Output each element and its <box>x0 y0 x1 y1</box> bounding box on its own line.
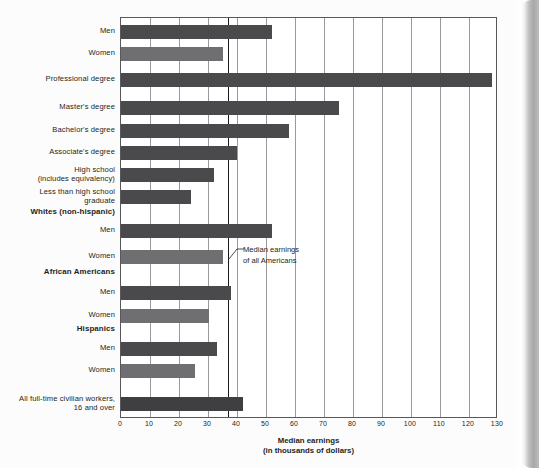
category-label: Professional degree <box>2 74 115 83</box>
x-tick-0: 0 <box>118 420 122 427</box>
bar-row <box>121 124 289 138</box>
x-tick-20: 20 <box>174 420 182 427</box>
x-tick-30: 30 <box>203 420 211 427</box>
label-line-1: Associate's degree <box>2 147 115 156</box>
category-label: Women <box>2 310 115 319</box>
label-line-1: Men <box>2 225 115 234</box>
label-line-1: Men <box>2 287 115 296</box>
x-tick-40: 40 <box>232 420 240 427</box>
annotation-line-2: of all Americans <box>243 256 353 267</box>
label-line-1: Women <box>2 365 115 374</box>
label-line-1: Professional degree <box>2 74 115 83</box>
bar-row <box>121 47 223 61</box>
label-line-1: Less than high school <box>2 187 115 196</box>
category-label: Women <box>2 251 115 260</box>
bar-row <box>121 397 243 411</box>
x-axis-tick-labels: 0102030405060708090100110120130 <box>120 420 497 434</box>
label-line-2: 16 and over <box>2 403 115 412</box>
bar-row <box>121 146 237 160</box>
category-label: Men <box>2 225 115 234</box>
x-tick-70: 70 <box>319 420 327 427</box>
category-label: All full-time civilian workers,16 and ov… <box>2 394 115 412</box>
bar-row <box>121 286 231 300</box>
group-header-label: Hispanics <box>2 324 115 333</box>
label-line-2: (includes equivalency) <box>2 174 115 183</box>
category-label: Men <box>2 287 115 296</box>
label-line-1: Women <box>2 48 115 57</box>
label-line-1: High school <box>2 165 115 174</box>
bar-row <box>121 168 214 182</box>
x-tick-10: 10 <box>145 420 153 427</box>
annotation-leader-line <box>228 246 244 260</box>
label-line-1: African Americans <box>2 267 115 276</box>
x-tick-80: 80 <box>348 420 356 427</box>
bar-row <box>121 25 272 39</box>
category-label: Men <box>2 26 115 35</box>
annotation-line-1: Median earnings <box>243 245 353 256</box>
label-line-1: Men <box>2 26 115 35</box>
bar-row <box>121 309 209 323</box>
page-edge-shadow <box>513 0 521 468</box>
page-edge-binding <box>521 0 539 468</box>
bar-row <box>121 190 191 204</box>
x-tick-110: 110 <box>433 420 445 427</box>
x-axis-title-line-2: (in thousands of dollars) <box>120 446 497 456</box>
group-header-label: Whites (non-hispanic) <box>2 207 115 216</box>
category-label: Men <box>2 343 115 352</box>
x-axis-title-line-1: Median earnings <box>120 436 497 446</box>
bar-row <box>121 342 217 356</box>
median-annotation: Median earnings of all Americans <box>243 245 353 266</box>
category-label: Master's degree <box>2 102 115 111</box>
label-line-1: Women <box>2 251 115 260</box>
x-tick-130: 130 <box>491 420 503 427</box>
label-line-1: Whites (non-hispanic) <box>2 207 115 216</box>
x-tick-100: 100 <box>404 420 416 427</box>
bar-row <box>121 224 272 238</box>
label-line-1: Hispanics <box>2 324 115 333</box>
label-line-1: Bachelor's degree <box>2 125 115 134</box>
median-earnings-bar-chart: MenWomenProfessional degreeMaster's degr… <box>0 0 539 468</box>
label-line-1: All full-time civilian workers, <box>2 394 115 403</box>
x-axis-title: Median earnings (in thousands of dollars… <box>120 436 497 456</box>
bar-row <box>121 250 223 264</box>
category-label: Women <box>2 48 115 57</box>
x-tick-90: 90 <box>377 420 385 427</box>
label-line-1: Master's degree <box>2 102 115 111</box>
category-label: Less than high schoolgraduate <box>2 187 115 205</box>
bar-row <box>121 101 339 115</box>
x-tick-120: 120 <box>462 420 474 427</box>
category-label: Associate's degree <box>2 147 115 156</box>
x-tick-50: 50 <box>261 420 269 427</box>
category-label: High school(includes equivalency) <box>2 165 115 183</box>
label-line-1: Women <box>2 310 115 319</box>
category-label: Women <box>2 365 115 374</box>
category-label: Bachelor's degree <box>2 125 115 134</box>
x-tick-60: 60 <box>290 420 298 427</box>
label-line-2: graduate <box>2 196 115 205</box>
bar-row <box>121 73 492 87</box>
group-header-label: African Americans <box>2 267 115 276</box>
bar-row <box>121 364 195 378</box>
plot-area <box>120 17 497 418</box>
label-line-1: Men <box>2 343 115 352</box>
